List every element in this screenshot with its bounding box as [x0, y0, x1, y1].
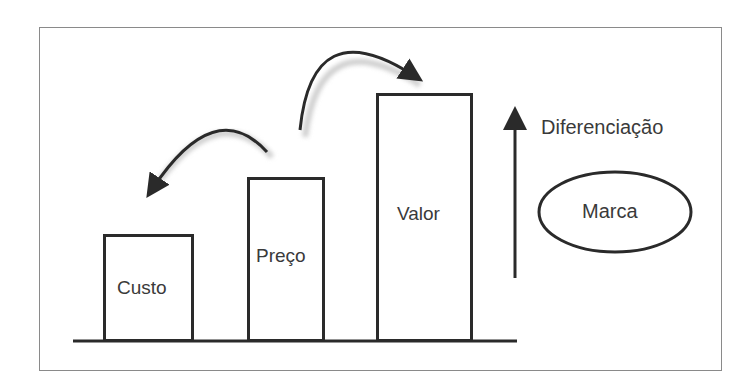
bar-label-preco: Preço	[256, 245, 306, 267]
axis-label-diferenciacao: Diferenciação	[541, 116, 663, 139]
bar-label-valor: Valor	[397, 203, 440, 225]
bar-label-custo: Custo	[117, 277, 167, 299]
ellipse-label-marca: Marca	[582, 200, 638, 223]
